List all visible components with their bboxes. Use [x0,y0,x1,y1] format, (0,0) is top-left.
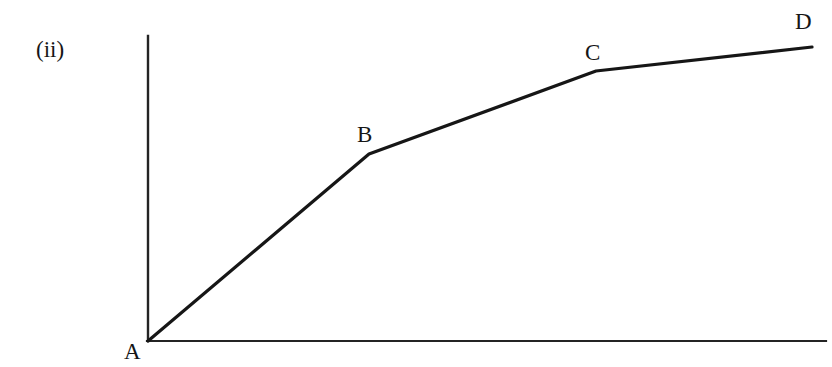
graph-canvas [0,0,832,367]
figure-number-label: (ii) [36,38,64,61]
point-label-c: C [585,41,600,64]
curve-path [148,47,812,341]
point-label-d: D [795,10,812,33]
point-label-b: B [357,123,372,146]
point-label-a: A [124,340,141,363]
figure-container: (ii) A B C D [0,0,832,367]
